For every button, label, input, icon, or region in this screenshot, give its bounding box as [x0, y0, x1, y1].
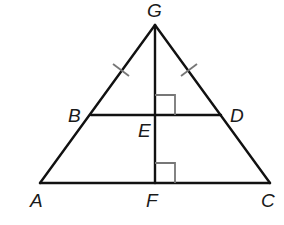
label-d: D — [230, 105, 244, 126]
label-a: A — [29, 190, 43, 211]
label-e: E — [138, 120, 151, 141]
label-b: B — [68, 105, 81, 126]
label-c: C — [261, 190, 275, 211]
label-g: G — [147, 0, 162, 21]
geometry-diagram: G B D E A F C — [0, 0, 284, 225]
right-angle-mark-e — [155, 95, 175, 115]
right-angle-mark-f — [155, 163, 175, 183]
segment-ga — [40, 25, 155, 183]
label-f: F — [146, 190, 159, 211]
segment-gc — [155, 25, 270, 183]
